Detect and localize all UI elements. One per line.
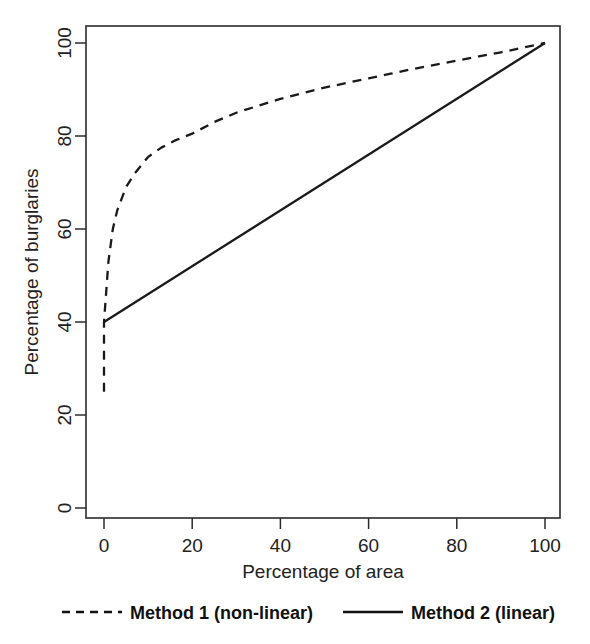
y-axis-title: Percentage of burglaries — [21, 168, 42, 375]
y-tick-label: 60 — [54, 218, 75, 239]
chart-svg: 020406080100 020406080100 Percentage of … — [0, 0, 590, 644]
x-tick-label: 40 — [270, 535, 291, 556]
x-tick-label: 0 — [99, 535, 110, 556]
legend-item-method-2: Method 2 (linear) — [343, 603, 555, 623]
plot-frame — [86, 26, 560, 518]
data-series-group — [104, 43, 545, 392]
y-tick-label: 0 — [54, 503, 75, 514]
y-tick-label: 100 — [54, 27, 75, 59]
y-tick-label: 20 — [54, 404, 75, 425]
legend-label-method-2: Method 2 (linear) — [411, 603, 555, 623]
y-axis: 020406080100 — [54, 27, 87, 513]
chart-figure: 020406080100 020406080100 Percentage of … — [0, 0, 590, 644]
x-tick-label: 80 — [446, 535, 467, 556]
x-axis-title: Percentage of area — [242, 561, 404, 582]
legend-item-method-1: Method 1 (non-linear) — [62, 603, 313, 623]
y-tick-label: 40 — [54, 311, 75, 332]
x-tick-label: 60 — [358, 535, 379, 556]
x-axis: 020406080100 — [99, 518, 561, 556]
series-method-1-dashed — [104, 43, 545, 392]
y-tick-label: 80 — [54, 125, 75, 146]
series-method-2-solid — [104, 43, 545, 322]
x-tick-label: 100 — [529, 535, 561, 556]
chart-legend: Method 1 (non-linear) Method 2 (linear) — [62, 603, 555, 623]
legend-label-method-1: Method 1 (non-linear) — [130, 603, 313, 623]
x-tick-label: 20 — [182, 535, 203, 556]
